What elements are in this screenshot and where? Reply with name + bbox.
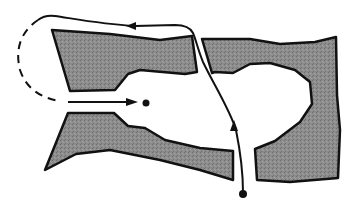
start-dot bbox=[239, 190, 247, 198]
diagram-canvas: Schematic of a channel between two shade… bbox=[0, 0, 360, 203]
arrow-up-icon bbox=[230, 120, 238, 131]
arrow-left-icon bbox=[126, 22, 136, 30]
end-dot bbox=[143, 100, 150, 107]
arrow-right-icon bbox=[126, 98, 138, 106]
diagram-svg bbox=[0, 0, 360, 203]
left-upper-mass bbox=[52, 30, 197, 91]
left-lower-mass bbox=[45, 113, 233, 180]
